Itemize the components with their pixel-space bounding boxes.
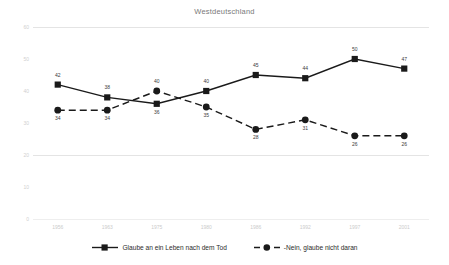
x-axis-tick-label: 1975 (151, 224, 162, 230)
data-point-label: 34 (55, 115, 61, 121)
chart-container: Westdeutschland 010203040506019561963197… (0, 0, 449, 265)
data-point-label: 26 (352, 141, 358, 147)
x-axis-tick-label: 2001 (399, 224, 410, 230)
data-point-label: 36 (154, 109, 160, 115)
legend-square-marker-icon (91, 243, 119, 252)
gridline-0 (33, 219, 429, 220)
data-point-marker[interactable] (253, 72, 259, 78)
data-point-marker[interactable] (302, 75, 308, 81)
chart-title: Westdeutschland (0, 7, 449, 16)
data-point-label: 47 (401, 56, 407, 62)
gridline-60 (33, 27, 429, 28)
x-axis-tick-label: 1963 (102, 224, 113, 230)
data-point-marker[interactable] (351, 132, 358, 139)
data-point-label: 44 (302, 65, 308, 71)
data-point-label: 42 (55, 72, 61, 78)
data-point-label: 35 (203, 112, 209, 118)
y-axis-tick-label: 30 (23, 120, 29, 126)
gridline-50 (33, 59, 429, 60)
data-point-label: 40 (203, 78, 209, 84)
legend-circle-marker-icon (253, 243, 281, 252)
y-axis-tick-label: 0 (26, 216, 29, 222)
x-axis-tick-label: 1980 (201, 224, 212, 230)
data-point-label: 40 (154, 78, 160, 84)
legend-label: Glaube an ein Leben nach dem Tod (122, 244, 226, 251)
y-axis-tick-label: 10 (23, 184, 29, 190)
data-point-marker[interactable] (104, 94, 110, 100)
data-point-label: 34 (104, 115, 110, 121)
x-axis-tick-label: 1997 (349, 224, 360, 230)
legend-item-0[interactable]: Glaube an ein Leben nach dem Tod (91, 243, 226, 252)
data-point-marker[interactable] (54, 107, 61, 114)
x-axis-tick-label: 1956 (52, 224, 63, 230)
chart-legend: Glaube an ein Leben nach dem Tod-Nein, g… (0, 243, 449, 252)
plot-area: 0102030405060195619631975198019861992199… (33, 27, 429, 219)
gridline-20 (33, 155, 429, 156)
y-axis-tick-label: 50 (23, 56, 29, 62)
data-point-label: 50 (352, 46, 358, 52)
data-point-marker[interactable] (154, 101, 160, 107)
data-point-label: 31 (302, 125, 308, 131)
y-axis-tick-label: 20 (23, 152, 29, 158)
data-point-marker[interactable] (401, 132, 408, 139)
gridline-40 (33, 91, 429, 92)
data-point-marker[interactable] (203, 104, 210, 111)
gridline-30 (33, 123, 429, 124)
legend-item-1[interactable]: -Nein, glaube nicht daran (253, 243, 358, 252)
legend-label: -Nein, glaube nicht daran (284, 244, 358, 251)
data-point-marker[interactable] (104, 107, 111, 114)
data-point-label: 28 (253, 134, 259, 140)
y-axis-tick-label: 40 (23, 88, 29, 94)
data-point-marker[interactable] (401, 66, 407, 72)
x-axis-tick-label: 1986 (250, 224, 261, 230)
data-point-label: 26 (401, 141, 407, 147)
data-point-marker[interactable] (55, 82, 61, 88)
gridline-10 (33, 187, 429, 188)
x-axis-tick-label: 1992 (300, 224, 311, 230)
data-point-label: 45 (253, 62, 259, 68)
data-point-label: 38 (104, 84, 110, 90)
y-axis-tick-label: 60 (23, 24, 29, 30)
data-point-marker[interactable] (252, 126, 259, 133)
